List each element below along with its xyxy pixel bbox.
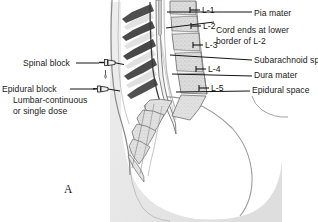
sacrum-coccyx-group <box>128 95 206 182</box>
label-epidural-space: Epidural space <box>252 85 310 96</box>
label-vertebra-l2: L-2 <box>203 21 215 31</box>
left-leader-lines <box>70 63 99 89</box>
label-epidural-detail-line-1: Lumbar-continuous <box>13 95 87 106</box>
panel-label-a: A <box>64 183 72 195</box>
label-epidural-block: Epidural block <box>2 84 57 95</box>
label-vertebra-l1: L-1 <box>202 5 214 15</box>
label-vertebra-l4: L-4 <box>208 64 220 74</box>
label-pia-mater: Pia mater <box>254 8 291 19</box>
label-epidural-detail-line-2: or single dose <box>13 106 67 117</box>
label-vertebra-l5: L-5 <box>211 83 223 93</box>
label-subarachnoid-space: Subarachnoid space <box>254 55 318 66</box>
spinous-processes-group <box>122 4 158 99</box>
label-vertebra-l3: L-3 <box>205 40 217 50</box>
label-dura-mater: Dura mater <box>254 70 297 81</box>
label-cord-ends-line-1: Cord ends at lower <box>216 25 289 36</box>
label-cord-ends-line-2: border of L-2 <box>216 36 266 47</box>
spine-anatomy-figure: Pia mater Cord ends at lower border of L… <box>0 0 318 222</box>
label-spinal-block: Spinal block <box>23 58 70 69</box>
